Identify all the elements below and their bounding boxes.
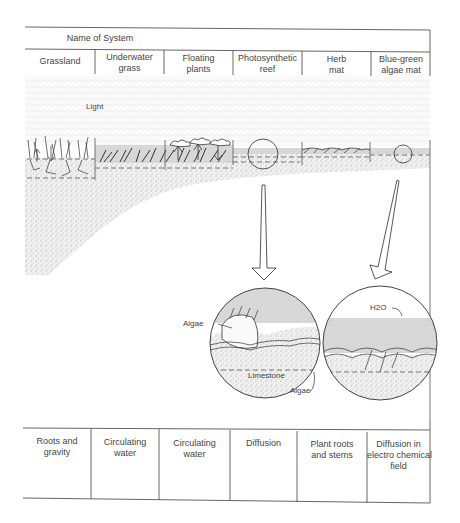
mechanism-herb-mat: Plant roots and stems xyxy=(297,439,367,461)
algae-label-bottom: Algae xyxy=(290,386,310,395)
system-header-title: Name of System xyxy=(25,33,175,44)
mechanism-blue-green-algae-mat: Diffusion in electro chemical field xyxy=(367,439,430,472)
algae-label-top: Algae xyxy=(183,319,203,328)
light-label: Light xyxy=(86,102,103,111)
mechanism-floating-plants: Circulating water xyxy=(159,438,230,460)
system-name-photosynthetic-reef: Photosynthetic reef xyxy=(233,53,302,75)
mechanism-photosynthetic-reef: Diffusion xyxy=(230,438,297,449)
mechanism-grassland: Roots and gravity xyxy=(23,436,91,458)
system-name-floating-plants: Floating plants xyxy=(164,53,233,75)
system-name-underwater-grass: Underwater grass xyxy=(95,52,164,74)
mechanism-underwater-grass: Circulating water xyxy=(91,437,159,459)
sky-region xyxy=(25,76,430,146)
water-label: H2O xyxy=(370,303,386,312)
system-name-blue-green-algae-mat: Blue-green algae mat xyxy=(371,54,431,76)
limestone-label: Limestone xyxy=(248,371,285,380)
system-name-grassland: Grassland xyxy=(25,56,95,67)
system-name-herb-mat: Herb mat xyxy=(302,54,371,76)
